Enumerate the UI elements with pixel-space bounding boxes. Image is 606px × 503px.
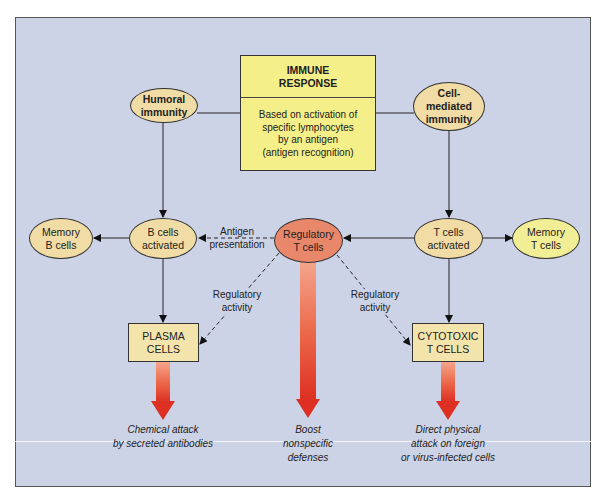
outcome-line: Chemical attack xyxy=(98,423,228,437)
cytotoxic-outcome-text: Direct physical attack on foreign or vir… xyxy=(383,423,513,465)
node-label: immunity xyxy=(426,113,473,126)
edge-label-line: activity xyxy=(205,302,269,315)
outcome-line: nonspecific xyxy=(263,437,353,451)
regulatory-outcome-arrow xyxy=(296,262,320,418)
outcome-line: attack on foreign xyxy=(383,437,513,451)
node-label: CYTOTOXIC xyxy=(418,330,479,343)
humoral-immunity-node: Humoral immunity xyxy=(130,88,198,123)
node-label: immunity xyxy=(141,106,188,119)
regulatory-activity-left-label: Regulatory activity xyxy=(205,289,269,314)
description-line: (antigen recognition) xyxy=(259,147,357,160)
node-label: Humoral xyxy=(141,93,188,106)
immune-response-box: IMMUNE RESPONSE Based on activation of s… xyxy=(240,55,376,171)
edge-label-line: Antigen xyxy=(205,226,269,239)
edge-label-line: activity xyxy=(343,302,407,315)
node-label: Cell- xyxy=(426,87,473,100)
plasma-cells-box: PLASMA CELLS xyxy=(128,323,199,362)
outcome-line: Boost xyxy=(263,423,353,437)
node-label: Memory xyxy=(527,226,565,239)
node-label: B cells xyxy=(142,226,184,239)
outcome-line: defenses xyxy=(263,451,353,465)
immune-response-description: Based on activation of specific lymphocy… xyxy=(241,98,375,170)
immune-response-title: IMMUNE RESPONSE xyxy=(241,56,375,98)
node-label: activated xyxy=(142,239,184,252)
node-label: T CELLS xyxy=(418,343,479,356)
outcome-line: Direct physical xyxy=(383,423,513,437)
edge-label-line: Regulatory xyxy=(205,289,269,302)
node-label: PLASMA xyxy=(142,330,185,343)
description-line: Based on activation of xyxy=(259,109,357,122)
plasma-outcome-text: Chemical attack by secreted antibodies xyxy=(98,423,228,451)
cell-mediated-immunity-node: Cell- mediated immunity xyxy=(413,82,485,131)
plasma-outcome-arrow xyxy=(151,362,175,420)
title-line: RESPONSE xyxy=(279,77,337,90)
memory-b-cells-node: Memory B cells xyxy=(29,218,93,259)
outcome-line: by secreted antibodies xyxy=(98,437,228,451)
node-label: T cells xyxy=(427,226,469,239)
regulatory-activity-right-label: Regulatory activity xyxy=(343,289,407,314)
node-label: T cells xyxy=(527,239,565,252)
node-label: Regulatory xyxy=(283,228,334,241)
b-cells-activated-node: B cells activated xyxy=(129,218,197,259)
node-label: CELLS xyxy=(142,343,185,356)
description-line: by an antigen xyxy=(259,134,357,147)
regulatory-outcome-text: Boost nonspecific defenses xyxy=(263,423,353,465)
title-line: IMMUNE xyxy=(279,64,337,77)
cytotoxic-t-cells-box: CYTOTOXIC T CELLS xyxy=(412,323,484,362)
outcome-line: or virus-infected cells xyxy=(383,451,513,465)
node-label: mediated xyxy=(426,100,473,113)
node-label: activated xyxy=(427,239,469,252)
node-label: B cells xyxy=(42,239,80,252)
description-line: specific lymphocytes xyxy=(259,122,357,135)
edge-label-line: Regulatory xyxy=(343,289,407,302)
t-cells-activated-node: T cells activated xyxy=(414,218,483,259)
node-label: Memory xyxy=(42,226,80,239)
regulatory-t-cells-node: Regulatory T cells xyxy=(274,218,343,263)
memory-t-cells-node: Memory T cells xyxy=(512,218,580,259)
node-label: T cells xyxy=(283,241,334,254)
cytotoxic-outcome-arrow xyxy=(436,362,460,420)
edge-label-line: presentation xyxy=(205,239,269,252)
antigen-presentation-label: Antigen presentation xyxy=(205,226,269,251)
